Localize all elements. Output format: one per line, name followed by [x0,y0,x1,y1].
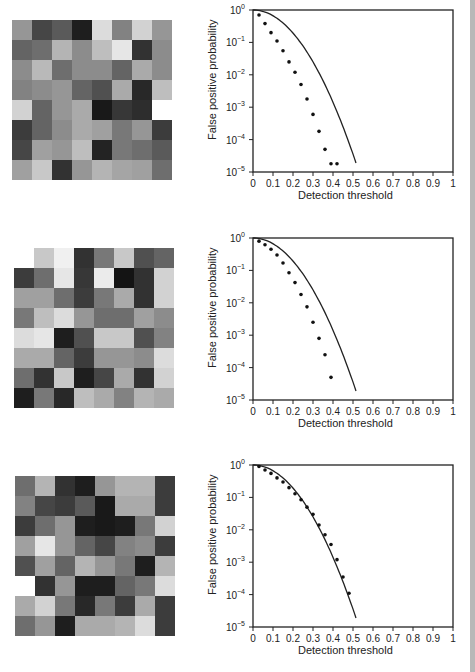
data-point [275,39,279,43]
grid-cell [112,80,132,100]
grid-cell [55,476,75,496]
data-point [257,13,261,17]
data-point [305,97,309,101]
grid-cell [115,536,135,556]
grid-cell [55,596,75,616]
grid-cell [95,616,115,636]
grid-cell [52,120,72,140]
x-tick-label: 0.4 [326,406,340,417]
grid-cell [114,388,134,408]
x-tick-label: 0.6 [366,178,380,189]
grid-cell [14,328,34,348]
x-tick-label: 0.5 [346,406,360,417]
x-tick-label: 0.7 [386,406,400,417]
grid-cell [115,496,135,516]
grid-cell [134,268,154,288]
grid-cell [75,596,95,616]
grid-cell [154,348,174,368]
grid-cell [52,100,72,120]
grid-cell [74,368,94,388]
grid-cell [134,308,154,328]
grid-cell [115,476,135,496]
grid-cell [134,348,154,368]
y-tick-label: 100 [230,458,245,471]
grid-cell [35,556,55,576]
grid-cell [75,576,95,596]
grid-cell [115,516,135,536]
grid-cell [114,268,134,288]
grid-cell [14,248,34,268]
grid-cell [35,496,55,516]
grid-cell [92,140,112,160]
chart-3: 00.10.20.30.40.50.60.70.80.9110010−110−2… [205,455,467,670]
x-tick-label: 0.3 [306,633,320,644]
data-point [269,472,273,476]
y-tick-label: 10−2 [226,68,245,81]
grid-cell [152,40,172,60]
grid-cell [34,268,54,288]
grid-cell [14,388,34,408]
grid-cell [152,20,172,40]
grid-cell [54,288,74,308]
grid-cell [15,536,35,556]
chart-2: 00.10.20.30.40.50.60.70.80.9110010−110−2… [205,228,467,443]
x-axis-label: Detection threshold [298,189,393,201]
grid-cell [114,308,134,328]
grid-cell [75,536,95,556]
grid-cell [152,140,172,160]
page-edge-bar [470,0,475,672]
grid-cell [112,60,132,80]
chart-1: 00.10.20.30.40.50.60.70.80.9110010−110−2… [205,0,467,215]
grid-cell [155,536,175,556]
data-point [323,353,327,357]
grid-cell [32,40,52,60]
grid-cell [12,120,32,140]
grid-cell [134,248,154,268]
grid-cell [34,328,54,348]
x-tick-label: 0.5 [346,633,360,644]
grid-cell [72,120,92,140]
grid-cell [34,308,54,328]
grid-cell [134,288,154,308]
y-tick-label: 10−2 [226,296,245,309]
grid-cell [155,496,175,516]
y-axis-label: False positive probability [206,248,218,368]
y-tick-label: 10−4 [226,361,245,374]
grid-cell [152,100,172,120]
x-tick-label: 1 [450,406,456,417]
y-tick-label: 10−4 [226,588,245,601]
grid-cell [154,388,174,408]
data-point [275,253,279,257]
grid-cell [154,308,174,328]
data-point [281,261,285,265]
grid-cell [92,160,112,180]
grid-cell [32,140,52,160]
data-point [293,70,297,74]
grid-cell [15,516,35,536]
predicted-curve [253,10,356,163]
grid-cell [155,516,175,536]
grid-cell [92,40,112,60]
grid-cell [152,60,172,80]
grid-cell [95,536,115,556]
grid-cell [154,368,174,388]
grid-cell [132,20,152,40]
grid-cell [135,516,155,536]
grid-cell [114,348,134,368]
x-tick-label: 0.2 [286,406,300,417]
grid-cell [12,160,32,180]
y-tick-label: 100 [230,231,245,244]
grid-cell [94,248,114,268]
grid-cell [12,60,32,80]
data-point [275,476,279,480]
grid-cell [112,20,132,40]
data-point [299,83,303,87]
data-point [317,523,321,527]
grid-cell [72,140,92,160]
grid-cell [15,556,35,576]
grid-cell [52,80,72,100]
x-tick-label: 0.4 [326,178,340,189]
grid-cell [55,496,75,516]
grid-cell [114,288,134,308]
grid-cell [132,120,152,140]
